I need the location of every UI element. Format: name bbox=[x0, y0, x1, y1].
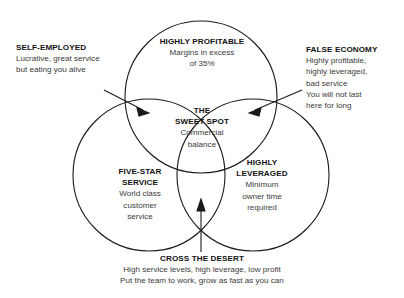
callout-false-economy-line-3: bad service bbox=[306, 78, 402, 89]
circle-label-highly-profitable-line-2: of 35% bbox=[136, 58, 268, 69]
callout-self-employed-line-1: Lucrative, great service bbox=[16, 53, 141, 64]
center-label-sweet-spot-line-2: balance bbox=[156, 139, 248, 150]
callout-self-employed-line-2: but eating you alive bbox=[16, 64, 141, 75]
circle-label-highly-leveraged: HIGHLY LEVERAGED Minimum owner time requ… bbox=[216, 157, 308, 213]
callout-self-employed-heading: SELF-EMPLOYED bbox=[16, 42, 141, 53]
arrow-head-self-employed bbox=[137, 108, 149, 116]
center-label-sweet-spot-heading-1: THE bbox=[156, 105, 248, 116]
arrow-head-false-economy bbox=[249, 108, 261, 116]
circle-label-highly-leveraged-heading-1: HIGHLY bbox=[216, 157, 308, 168]
callout-cross-the-desert-heading: CROSS THE DESERT bbox=[52, 253, 352, 264]
circle-label-highly-leveraged-heading-2: LEVERAGED bbox=[216, 168, 308, 179]
callout-cross-the-desert-line-1: High service levels, high leverage, low … bbox=[52, 264, 352, 275]
center-label-sweet-spot-line-1: Commercial bbox=[156, 127, 248, 138]
circle-label-highly-leveraged-line-3: required bbox=[216, 202, 308, 213]
venn-diagram: SELF-EMPLOYED Lucrative, great service b… bbox=[0, 0, 404, 298]
callout-false-economy-line-4: You will not last bbox=[306, 89, 402, 100]
arrow-head-cross-the-desert bbox=[197, 199, 205, 211]
callout-false-economy-line-2: highly leveraged, bbox=[306, 66, 402, 77]
circle-label-five-star-service-line-2: customer bbox=[94, 200, 186, 211]
circle-label-five-star-service-line-1: World class bbox=[94, 188, 186, 199]
circle-label-highly-profitable-line-1: Margins in excess bbox=[136, 47, 268, 58]
circle-label-highly-profitable: HIGHLY PROFITABLE Margins in excess of 3… bbox=[136, 36, 268, 70]
circle-label-five-star-service-heading-2: SERVICE bbox=[94, 177, 186, 188]
callout-false-economy-line-5: here for long bbox=[306, 100, 402, 111]
circle-label-highly-profitable-heading: HIGHLY PROFITABLE bbox=[136, 36, 268, 47]
center-label-sweet-spot: THE SWEET SPOT Commercial balance bbox=[156, 105, 248, 150]
callout-false-economy-line-1: Highly profitable, bbox=[306, 55, 402, 66]
circle-label-five-star-service: FIVE-STAR SERVICE World class customer s… bbox=[94, 166, 186, 222]
callout-cross-the-desert-line-2: Put the team to work, grow as fast as yo… bbox=[52, 275, 352, 286]
callout-false-economy: FALSE ECONOMY Highly profitable, highly … bbox=[306, 44, 402, 111]
callout-false-economy-heading: FALSE ECONOMY bbox=[306, 44, 402, 55]
center-label-sweet-spot-heading-2: SWEET SPOT bbox=[156, 116, 248, 127]
circle-label-five-star-service-heading-1: FIVE-STAR bbox=[94, 166, 186, 177]
circle-label-highly-leveraged-line-1: Minimum bbox=[216, 179, 308, 190]
callout-self-employed: SELF-EMPLOYED Lucrative, great service b… bbox=[16, 42, 141, 76]
circle-label-highly-leveraged-line-2: owner time bbox=[216, 191, 308, 202]
callout-cross-the-desert: CROSS THE DESERT High service levels, hi… bbox=[52, 253, 352, 287]
circle-label-five-star-service-line-3: service bbox=[94, 211, 186, 222]
